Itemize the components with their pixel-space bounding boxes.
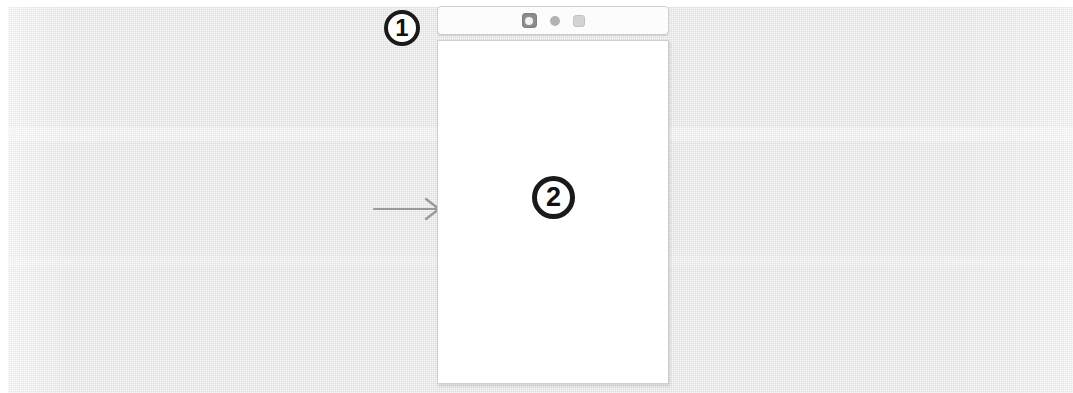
arrow-right-icon (372, 196, 444, 222)
callout-badge-1: 1 (384, 10, 420, 46)
figure-screenshot: 1 2 (0, 0, 1073, 393)
callout-badge-1-label: 1 (395, 16, 408, 40)
callout-badge-2-label: 2 (546, 184, 561, 211)
device-toolbar[interactable] (437, 6, 669, 35)
square-icon[interactable] (573, 15, 585, 27)
dot-icon[interactable] (550, 16, 560, 26)
app-icon[interactable] (522, 13, 537, 28)
callout-badge-2: 2 (532, 176, 575, 219)
arrow-pointer (372, 196, 444, 222)
toolbar-icon-group (438, 7, 668, 34)
